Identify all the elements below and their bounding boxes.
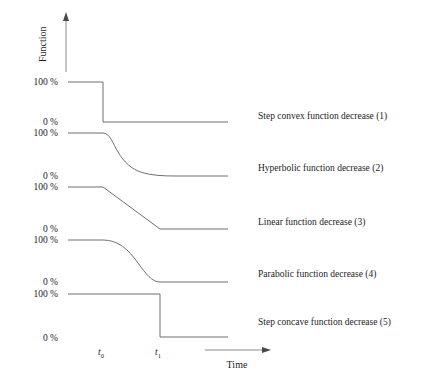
panel-2: 100 % 0 % Hyperbolic function decrease (…: [33, 128, 383, 181]
x-axis-ticks: t0 t1: [98, 347, 161, 359]
panel-1-curve: [68, 82, 228, 122]
x-tick-t1: t1: [155, 347, 161, 359]
panel-2-tick-high: 100 %: [33, 128, 58, 138]
x-tick-t0-sub: 0: [101, 352, 104, 359]
x-axis-arrow-head: [262, 347, 271, 353]
x-tick-t0: t0: [98, 347, 104, 359]
y-axis-group: Function: [37, 12, 69, 72]
panel-2-curve: [68, 133, 228, 176]
panel-3-label: Linear function decrease (3): [258, 217, 365, 228]
panel-4-tick-low: 0 %: [43, 277, 58, 287]
panel-3-tick-low: 0 %: [43, 224, 58, 234]
panel-5-label: Step concave function decrease (5): [258, 317, 391, 328]
panel-5: 100 % 0 % Step concave function decrease…: [33, 289, 390, 343]
panel-1-tick-high: 100 %: [33, 77, 58, 87]
x-tick-t1-sub: 1: [158, 352, 161, 359]
panel-3: 100 % 0 % Linear function decrease (3): [33, 182, 365, 234]
x-axis-title: Time: [227, 359, 248, 370]
panel-4: 100 % 0 % Parabolic function decrease (4…: [33, 235, 376, 287]
x-axis-group: Time: [205, 347, 271, 370]
panel-5-tick-high: 100 %: [33, 289, 58, 299]
panel-2-tick-low: 0 %: [43, 171, 58, 181]
panel-4-label: Parabolic function decrease (4): [258, 269, 376, 280]
panel-3-tick-high: 100 %: [33, 182, 58, 192]
function-decrease-figure: Function 100 % 0 % Step convex function …: [0, 0, 428, 381]
panel-5-curve: [68, 294, 228, 337]
panel-3-curve: [68, 187, 228, 229]
panel-1: 100 % 0 % Step convex function decrease …: [33, 77, 387, 127]
panel-1-tick-low: 0 %: [43, 117, 58, 127]
panel-1-label: Step convex function decrease (1): [258, 111, 387, 122]
panel-5-tick-low: 0 %: [43, 333, 58, 343]
y-axis-title: Function: [37, 26, 48, 62]
panel-2-label: Hyperbolic function decrease (2): [258, 163, 383, 174]
panel-4-curve: [68, 240, 228, 282]
panel-4-tick-high: 100 %: [33, 235, 58, 245]
y-axis-arrow-head: [63, 12, 69, 21]
